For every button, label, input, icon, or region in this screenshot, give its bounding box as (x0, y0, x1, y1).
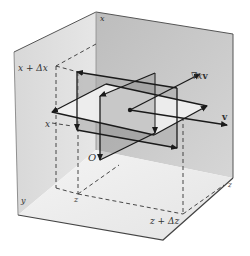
curl-volume-diagram: x x + Δx x O y z z + Δz z ∇xv v (0, 0, 250, 256)
center-point (128, 108, 132, 112)
label-z: z (73, 195, 79, 204)
label-x-left: x (45, 119, 50, 129)
label-z-plus-dz: z + Δz (149, 216, 180, 226)
label-velocity: v (221, 112, 228, 122)
label-x-top: x (100, 14, 105, 23)
label-curl: ∇xv (191, 71, 208, 81)
label-origin: O (88, 152, 96, 163)
label-y: y (20, 196, 26, 205)
label-z-right: z (227, 181, 232, 189)
label-x-plus-dx: x + Δx (18, 63, 48, 73)
